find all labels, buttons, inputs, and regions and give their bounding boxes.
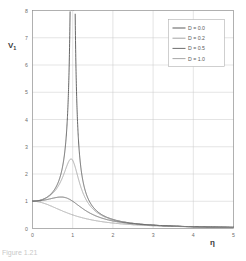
x-tick-label: 3	[152, 232, 155, 238]
y-tick-label: 7	[25, 35, 28, 41]
y-tick-label: 4	[25, 117, 28, 123]
y-tick-label: 1	[25, 198, 28, 204]
x-axis-title-text: η	[210, 238, 215, 247]
y-tick-label: 0	[25, 226, 28, 232]
legend-label: D = 0.5	[188, 45, 205, 51]
curve-0p5	[33, 197, 234, 227]
chart-legend[interactable]: D = 0.0D = 0.2D = 0.5D = 1.0	[169, 20, 225, 67]
curve-0p2	[33, 159, 234, 227]
legend-label: D = 1.0	[188, 56, 205, 62]
magnification-factor-chart: 012345012345678 D = 0.0D = 0.2D = 0.5D =…	[0, 0, 246, 261]
y-tick-label: 3	[25, 144, 28, 150]
x-axis-title: η	[210, 238, 215, 247]
y-tick-label: 6	[25, 62, 28, 68]
y-axis-title-subscript: 1	[13, 45, 16, 51]
legend-label: D = 0.2	[188, 35, 205, 41]
y-tick-label: 2	[25, 171, 28, 177]
x-tick-label: 1	[71, 232, 74, 238]
x-tick-label: 4	[192, 232, 195, 238]
x-tick-label: 5	[232, 232, 235, 238]
y-tick-label: 5	[25, 89, 28, 95]
figure-caption: Figure 1.21	[2, 249, 102, 260]
y-tick-label: 8	[25, 8, 28, 14]
legend-label: D = 0.0	[188, 25, 205, 31]
figure-container: 012345012345678 D = 0.0D = 0.2D = 0.5D =…	[0, 0, 246, 261]
x-tick-label: 2	[111, 232, 114, 238]
y-axis-title: V1	[8, 41, 16, 50]
x-tick-label: 0	[31, 232, 34, 238]
